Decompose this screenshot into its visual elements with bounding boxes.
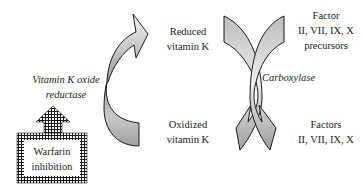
- label-line: vitamin K: [152, 132, 224, 147]
- label-factor-precursors: Factor II, VII, IX, X precursors: [290, 8, 362, 53]
- enzyme-label-vkor: Vitamin K oxide reductase: [18, 72, 114, 102]
- enzyme-label-line-1: Vitamin K oxide: [18, 72, 114, 87]
- warfarin-inhibition-arrow: [36, 106, 70, 133]
- label-reduced-vitamin-k: Reduced vitamin K: [152, 24, 224, 54]
- label-line: Oxidized: [152, 117, 224, 132]
- label-line: Factor: [290, 8, 362, 23]
- label-line: II, VII, IX, X: [290, 132, 362, 147]
- label-warfarin-inhibition: Warfarin inhibition: [24, 144, 80, 174]
- enzyme-label-text: Carboxylase: [262, 72, 315, 83]
- enzyme-label-carboxylase: Carboxylase: [262, 70, 334, 85]
- label-line: inhibition: [24, 159, 80, 174]
- label-line: vitamin K: [152, 39, 224, 54]
- enzyme-label-line-2: reductase: [18, 87, 114, 102]
- label-carboxylated-factors: Factors II, VII, IX, X: [290, 117, 362, 147]
- label-line: precursors: [290, 38, 362, 53]
- label-line: Factors: [290, 117, 362, 132]
- label-line: Warfarin: [24, 144, 80, 159]
- carboxylase-arrow-left: [224, 16, 262, 150]
- label-oxidized-vitamin-k: Oxidized vitamin K: [152, 117, 224, 147]
- label-line: II, VII, IX, X: [290, 23, 362, 38]
- label-line: Reduced: [152, 24, 224, 39]
